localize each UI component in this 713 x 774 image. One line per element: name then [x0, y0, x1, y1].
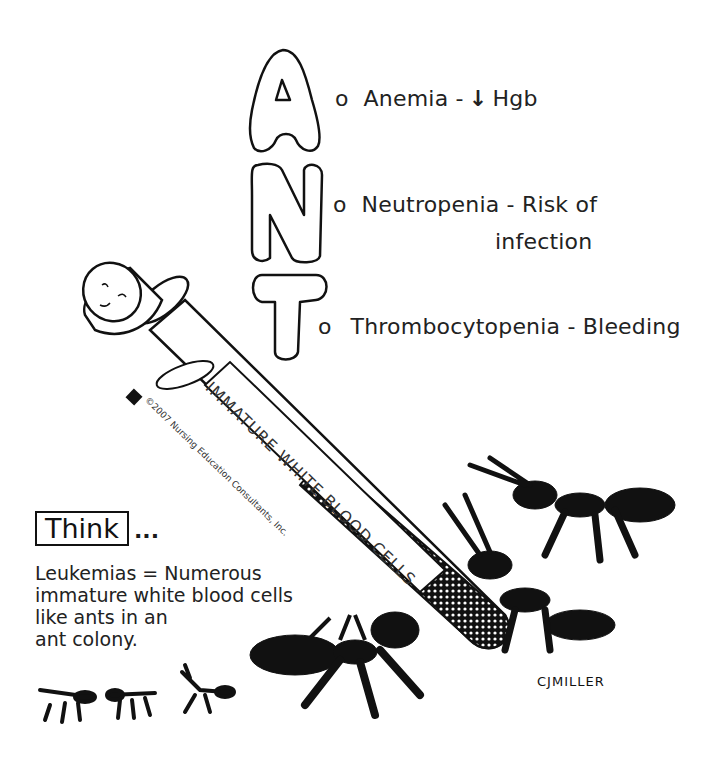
anemia-text: Anemia - [364, 86, 464, 111]
think-line-4: ant colony. [35, 628, 293, 650]
mnemonic-item-anemia: o Anemia - ↓ Hgb [335, 86, 538, 111]
bullet-icon: o [333, 192, 346, 217]
illustration-canvas [0, 0, 713, 774]
think-line-3: like ants in an [35, 606, 293, 628]
mnemonic-item-neutropenia: o Neutropenia - Risk of [333, 192, 597, 217]
neutropenia-line2: infection [495, 229, 592, 254]
think-explanation: Leukemias = Numerous immature white bloo… [35, 562, 293, 650]
artist-signature: CJMILLER [537, 674, 605, 689]
bubble-letter-t [253, 275, 327, 360]
down-arrow-icon: ↓ [469, 86, 488, 111]
thrombocytopenia-text: Thrombocytopenia - Bleeding [351, 314, 681, 339]
hgb-text: Hgb [492, 86, 537, 111]
neutropenia-text: Neutropenia - Risk of [362, 192, 598, 217]
ant-large-top-right [470, 458, 675, 560]
think-ellipsis: ... [134, 518, 159, 543]
bullet-icon: o [318, 314, 331, 339]
small-ants-row [40, 665, 234, 722]
think-box-label: Think [35, 511, 129, 546]
mnemonic-item-thrombocytopenia: o Thrombocytopenia - Bleeding [318, 314, 681, 339]
think-line-2: immature white blood cells [35, 584, 293, 606]
bubble-letter-n [252, 164, 322, 262]
bullet-icon: o [335, 86, 348, 111]
bubble-letter-a [250, 50, 320, 151]
think-section: Think ... [35, 512, 159, 546]
think-line-1: Leukemias = Numerous [35, 562, 293, 584]
